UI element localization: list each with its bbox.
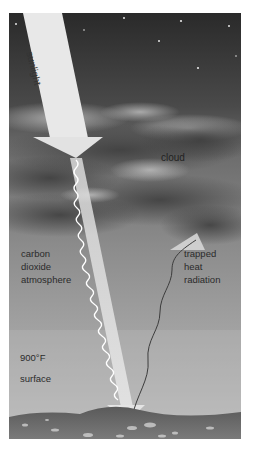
- trapped-heat-label-line: radiation: [184, 273, 220, 286]
- atmosphere-label: carbon dioxide atmosphere: [21, 247, 71, 286]
- atmosphere-label-line: carbon: [21, 247, 71, 260]
- surface-label: surface: [20, 372, 51, 385]
- temperature-label: 900°F: [20, 351, 45, 364]
- trapped-heat-label-line: trapped: [184, 247, 220, 260]
- cloud-label: cloud: [161, 151, 185, 164]
- atmosphere-label-line: atmosphere: [21, 273, 71, 286]
- trapped-heat-label: trapped heat radiation: [184, 247, 220, 286]
- trapped-heat-label-line: heat: [184, 260, 220, 273]
- atmosphere-label-line: dioxide: [21, 260, 71, 273]
